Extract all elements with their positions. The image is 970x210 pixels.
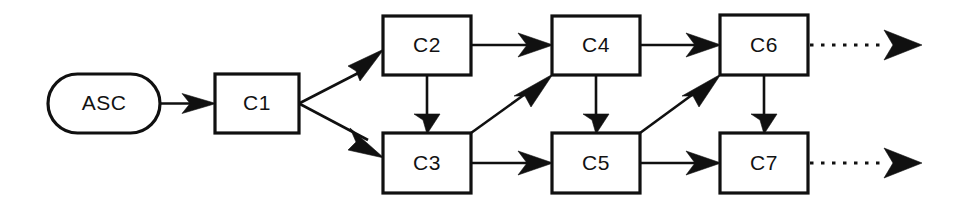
node-c4-label: C4 [582, 33, 610, 56]
node-c3[interactable]: C3 [383, 133, 471, 193]
node-asc-label: ASC [82, 91, 127, 114]
node-c5-label: C5 [582, 151, 610, 174]
edge-c4-to-c6 [640, 33, 721, 57]
node-c2-label: C2 [413, 33, 441, 56]
flowchart-canvas: ASC C1 C2 C3 C4 C5 C6 [0, 0, 970, 210]
edge-c5-to-c7 [640, 151, 721, 175]
node-c6-label: C6 [750, 33, 778, 56]
edge-c1-to-c3 [299, 104, 384, 159]
edge-c6-outgoing-dashed [810, 30, 922, 60]
edge-c7-outgoing-dashed [810, 148, 922, 178]
flowchart-svg: ASC C1 C2 C3 C4 C5 C6 [0, 0, 970, 210]
node-c6[interactable]: C6 [720, 15, 808, 75]
edge-c6-to-c7 [751, 75, 777, 134]
node-c2[interactable]: C2 [383, 16, 471, 75]
edge-c5-to-c6 [640, 74, 721, 133]
edge-c4-to-c5 [583, 75, 609, 134]
edge-c1-to-c2 [299, 49, 384, 104]
edge-c3-to-c5 [471, 151, 553, 175]
node-c5[interactable]: C5 [552, 133, 640, 193]
node-c4[interactable]: C4 [552, 16, 640, 75]
node-c1-label: C1 [243, 91, 271, 114]
node-asc[interactable]: ASC [48, 74, 160, 133]
node-c7-label: C7 [750, 151, 778, 174]
node-c1[interactable]: C1 [215, 74, 299, 133]
edge-c2-to-c3 [414, 75, 440, 134]
edge-c2-to-c4 [471, 33, 553, 57]
edge-asc-to-c1 [160, 94, 216, 114]
edge-c3-to-c4 [471, 74, 553, 133]
node-c7[interactable]: C7 [720, 133, 808, 193]
node-c3-label: C3 [413, 151, 441, 174]
